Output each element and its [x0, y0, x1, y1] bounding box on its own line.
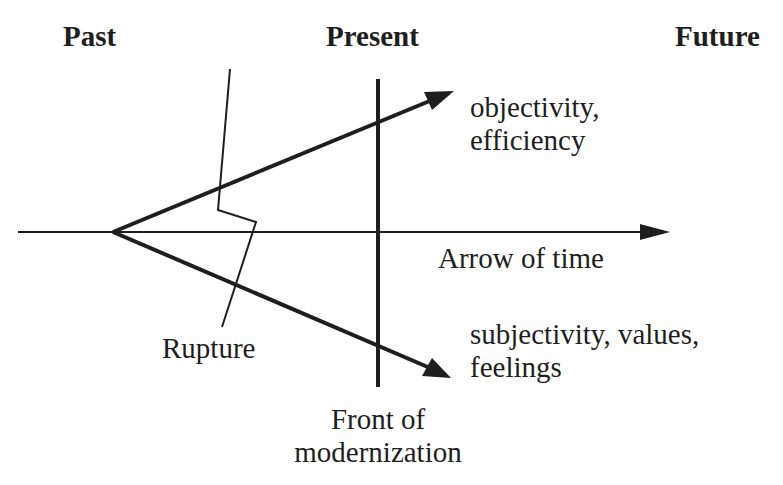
header-past: Past [63, 22, 116, 51]
diagram-canvas: Past Present Future objectivity, efficie… [0, 0, 783, 485]
subjectivity-label-line1: subjectivity, values, [470, 318, 699, 351]
front-label-line2: modernization [268, 436, 488, 469]
rupture-label: Rupture [162, 332, 255, 365]
objectivity-arrow [113, 91, 454, 232]
front-label-line1: Front of [268, 403, 488, 436]
subjectivity-label: subjectivity, values, feelings [470, 318, 699, 384]
header-future: Future [675, 22, 760, 51]
header-present: Present [326, 22, 419, 51]
subjectivity-label-line2: feelings [470, 351, 699, 384]
front-of-modernization-label: Front of modernization [268, 403, 488, 469]
arrow-of-time-label: Arrow of time [438, 242, 604, 275]
objectivity-label-line1: objectivity, [470, 91, 599, 124]
rupture-line [218, 69, 256, 327]
objectivity-label: objectivity, efficiency [470, 91, 599, 157]
objectivity-label-line2: efficiency [470, 124, 599, 157]
